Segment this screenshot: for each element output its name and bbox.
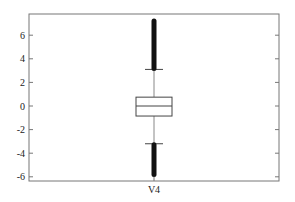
x-tick-label: V4 [148, 184, 160, 195]
box-plot-chart: -6-4-20246 V4 [0, 0, 295, 202]
y-tick-label: -2 [17, 124, 25, 135]
iqr-box [136, 97, 172, 116]
y-tick-label: 0 [20, 101, 25, 112]
y-tick-label: -6 [17, 171, 25, 182]
y-tick-label: 6 [20, 30, 25, 41]
y-tick-label: 2 [20, 77, 25, 88]
y-tick-label: 4 [20, 53, 25, 64]
y-tick-label: -4 [17, 148, 25, 159]
